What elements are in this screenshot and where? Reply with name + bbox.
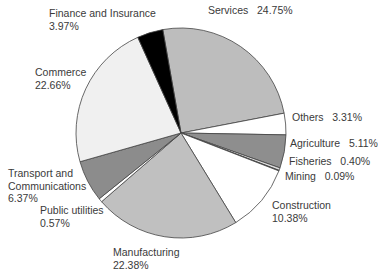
label-utilities: Public utilities0.57% [40,204,104,229]
label-transport: Transport andCommunications6.37% [8,167,86,205]
label-line: Commerce [35,66,86,79]
pie-slices [76,28,286,238]
label-construction: Construction10.38% [272,199,331,224]
label-line: 3.97% [49,20,156,33]
label-others: Others 3.31% [292,111,362,124]
label-line: 22.38% [113,259,180,269]
label-line: Transport and [8,167,86,180]
label-line: Finance and Insurance [49,7,156,20]
label-line: Services 24.75% [208,4,293,17]
label-line: Agriculture 5.11% [290,137,378,150]
label-line: 0.57% [40,217,104,230]
label-line: Manufacturing [113,246,180,259]
label-line: Others 3.31% [292,111,362,124]
label-fisheries: Fisheries 0.40% [289,155,370,168]
label-agriculture: Agriculture 5.11% [290,137,378,150]
label-line: Public utilities [40,204,104,217]
label-services: Services 24.75% [208,4,293,17]
label-mining: Mining 0.09% [285,170,354,183]
label-line: Fisheries 0.40% [289,155,370,168]
label-line: Mining 0.09% [285,170,354,183]
label-commerce: Commerce22.66% [35,66,86,91]
label-line: Construction [272,199,331,212]
label-manufacturing: Manufacturing22.38% [113,246,180,269]
label-line: 22.66% [35,79,86,92]
label-line: Communications [8,180,86,193]
label-finance: Finance and Insurance3.97% [49,7,156,32]
label-line: 10.38% [272,212,331,225]
label-line: 6.37% [8,192,86,205]
